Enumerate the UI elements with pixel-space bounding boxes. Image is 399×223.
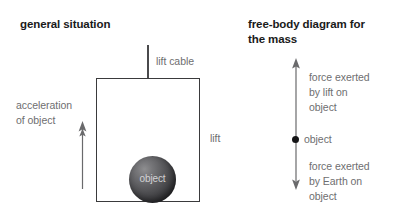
free-body-diagram-title: free-body diagram for the mass — [248, 17, 365, 47]
body-point-dot — [292, 136, 299, 143]
lift-cable-label: lift cable — [156, 54, 194, 69]
lift-cable-line — [147, 45, 149, 79]
diagram-canvas: general situation lift cable lift object… — [0, 0, 399, 223]
object-sphere-label: object — [139, 173, 165, 184]
body-point-label: object — [304, 132, 332, 147]
lift-label: lift — [210, 131, 220, 146]
object-sphere: object — [129, 156, 176, 203]
general-situation-title: general situation — [20, 17, 110, 32]
weight-force-label: force exerted by Earth on object — [309, 159, 370, 204]
acceleration-label: acceleration of object — [16, 98, 72, 128]
acceleration-arrow — [70, 115, 96, 195]
free-body-force-axis — [286, 54, 306, 196]
lift-force-label: force exerted by lift on object — [309, 70, 370, 115]
